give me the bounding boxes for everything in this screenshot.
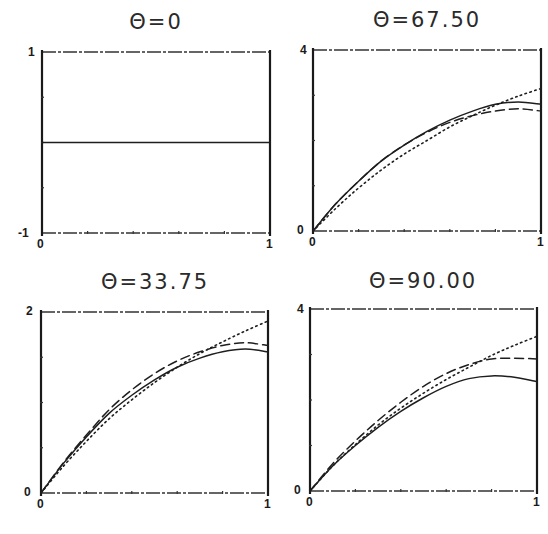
series-solid-line <box>41 349 268 493</box>
x-tick-left: 0 <box>37 497 44 511</box>
panel-title-theta-67-50: Θ=67.50 <box>327 8 527 32</box>
y-tick-bottom: 0 <box>297 223 304 237</box>
series-dashed-line <box>310 358 537 491</box>
y-tick-top: 1 <box>28 45 35 59</box>
series-solid-line <box>313 102 541 231</box>
panel-title-theta-90-00: Θ=90.00 <box>323 269 523 293</box>
x-tick-left: 0 <box>309 235 316 249</box>
series-dashed-line <box>41 343 268 493</box>
panel-title-theta-33-75: Θ=33.75 <box>55 270 255 294</box>
series-dotted-line <box>313 88 541 231</box>
x-tick-right: 1 <box>264 497 271 511</box>
x-tick-right: 1 <box>537 235 544 249</box>
panel-0 <box>41 50 270 236</box>
y-tick-top: 4 <box>300 43 307 57</box>
plots-canvas <box>0 0 548 534</box>
y-tick-bottom: 0 <box>294 483 301 497</box>
panel-1 <box>312 48 541 234</box>
y-tick-top: 2 <box>26 304 33 318</box>
y-tick-bottom: -1 <box>18 226 29 240</box>
x-tick-left: 0 <box>306 495 313 509</box>
panel-2 <box>40 310 268 496</box>
y-tick-top: 4 <box>297 302 304 316</box>
figure-2x2-grid: Θ=0 1 -1 0 1 Θ=67.50 4 0 0 1 Θ=33.75 2 0… <box>0 0 548 534</box>
panel-3 <box>309 307 537 494</box>
x-tick-right: 1 <box>266 237 273 251</box>
series-dotted-line <box>310 336 537 491</box>
y-tick-bottom: 0 <box>24 485 31 499</box>
series-dashed-line <box>313 109 541 231</box>
series-dotted-line <box>41 321 268 493</box>
panel-title-theta-0: Θ=0 <box>56 10 256 34</box>
x-tick-right: 1 <box>533 495 540 509</box>
x-tick-left: 0 <box>37 237 44 251</box>
